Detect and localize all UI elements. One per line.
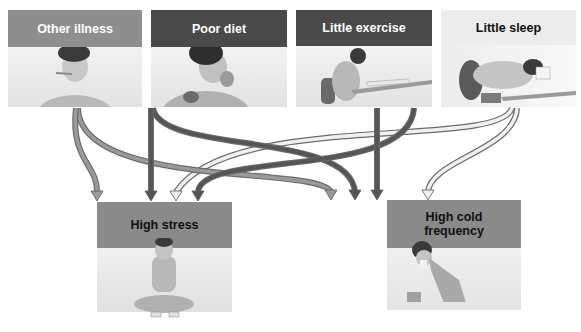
arrowhead-icon bbox=[170, 191, 182, 201]
illustration-sleeping-person bbox=[441, 45, 576, 107]
arrowhead-icon bbox=[325, 190, 337, 200]
outcome-label-line-2: frequency bbox=[424, 224, 484, 238]
illustration-desk-person bbox=[296, 46, 432, 107]
arrowhead-icon bbox=[145, 191, 157, 201]
outcome-high-stress: High stress bbox=[97, 202, 232, 332]
arrowhead-icon bbox=[349, 190, 361, 200]
arrowhead-icon bbox=[192, 191, 204, 201]
cause-label: Other illness bbox=[8, 10, 142, 47]
cause-little-sleep: Little sleep bbox=[441, 10, 576, 107]
cause-label: Little exercise bbox=[296, 10, 432, 46]
illustration-thermometer-person bbox=[8, 47, 142, 107]
cause-other-illness: Other illness bbox=[8, 10, 142, 107]
illustration-eating-person bbox=[151, 47, 287, 107]
arrowhead-icon bbox=[371, 190, 383, 200]
illustration-sneezing-person bbox=[387, 248, 521, 310]
arrowhead-icon bbox=[91, 191, 103, 201]
arrow-little-sleep-to-high-stress bbox=[176, 108, 512, 192]
cause-label: Poor diet bbox=[151, 10, 287, 47]
cause-label: Little sleep bbox=[441, 10, 576, 45]
outcome-high-cold-frequency: High cold frequency bbox=[387, 200, 521, 310]
cause-poor-diet: Poor diet bbox=[151, 10, 287, 107]
cause-little-exercise: Little exercise bbox=[296, 10, 432, 107]
illustration-stressed-person bbox=[97, 248, 232, 312]
arrow-little-sleep-to-high-cold bbox=[428, 108, 517, 192]
arrowhead-icon bbox=[422, 190, 434, 200]
outcome-label-line-1: High cold bbox=[426, 210, 483, 224]
